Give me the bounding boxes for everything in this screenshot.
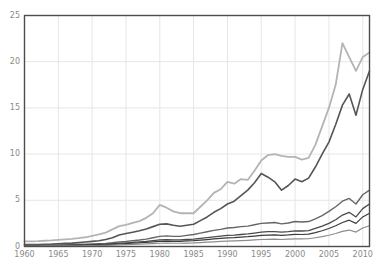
y-tick-label-5: 5 [2,196,20,204]
y-tick-label-25: 25 [2,12,20,20]
x-tick-label-1990: 1990 [212,251,242,259]
x-tick-label-2000: 2000 [280,251,310,259]
chart-plot-area [0,0,386,275]
x-tick-label-1980: 1980 [145,251,175,259]
x-tick-label-1970: 1970 [77,251,107,259]
line-chart: 0510152025 19601965197019751980198519901… [0,0,386,275]
x-tick-label-1975: 1975 [111,251,141,259]
y-tick-label-20: 20 [2,58,20,66]
x-tick-label-1995: 1995 [246,251,276,259]
x-tick-label-1965: 1965 [43,251,73,259]
y-tick-label-10: 10 [2,150,20,158]
x-tick-label-2010: 2010 [348,251,378,259]
x-tick-label-1985: 1985 [179,251,209,259]
y-tick-label-15: 15 [2,104,20,112]
x-tick-label-2005: 2005 [314,251,344,259]
x-tick-label-1960: 1960 [10,251,40,259]
